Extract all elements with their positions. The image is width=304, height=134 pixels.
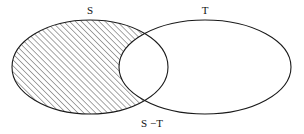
venn-diagram-figure: S T S −T: [0, 0, 304, 134]
s-minus-t-label: S −T: [141, 117, 163, 129]
set-s-label: S: [87, 4, 93, 16]
venn-diagram-canvas: S T S −T: [0, 0, 304, 134]
set-t-label: T: [202, 4, 209, 16]
